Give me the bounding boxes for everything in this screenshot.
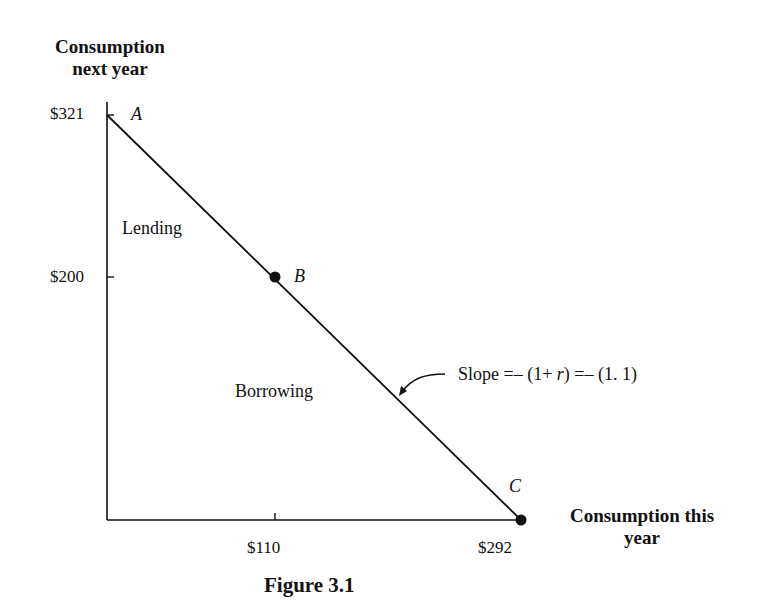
x-axis-title: Consumption this year	[532, 505, 752, 549]
x-axis-title-line1: Consumption this	[532, 505, 752, 527]
point-a-label: A	[131, 104, 142, 125]
borrowing-region-label: Borrowing	[235, 381, 313, 402]
y-axis-title: Consumption next year	[30, 36, 190, 80]
slope-leader-line	[402, 374, 445, 392]
slope-annotation-suffix: ) =– (1. 1)	[564, 364, 637, 384]
lending-region-label: Lending	[122, 218, 182, 239]
slope-annotation-variable: r	[557, 364, 564, 384]
y-axis-title-line2: next year	[30, 58, 190, 80]
y-tick-label-200: $200	[50, 267, 84, 287]
point-b-label: B	[294, 266, 305, 287]
slope-annotation: Slope =– (1+ r) =– (1. 1)	[458, 364, 637, 385]
point-b-marker	[270, 272, 281, 283]
y-axis-title-line1: Consumption	[30, 36, 190, 58]
point-c-marker	[516, 515, 527, 526]
x-tick-label-110: $110	[247, 538, 280, 558]
slope-annotation-prefix: Slope =– (1+	[458, 364, 557, 384]
y-tick-label-321: $321	[50, 104, 84, 124]
x-tick-label-292: $292	[478, 538, 512, 558]
budget-line	[107, 115, 521, 520]
figure-caption: Figure 3.1	[264, 573, 355, 598]
point-c-label: C	[509, 476, 521, 497]
x-axis-title-line2: year	[532, 527, 752, 549]
